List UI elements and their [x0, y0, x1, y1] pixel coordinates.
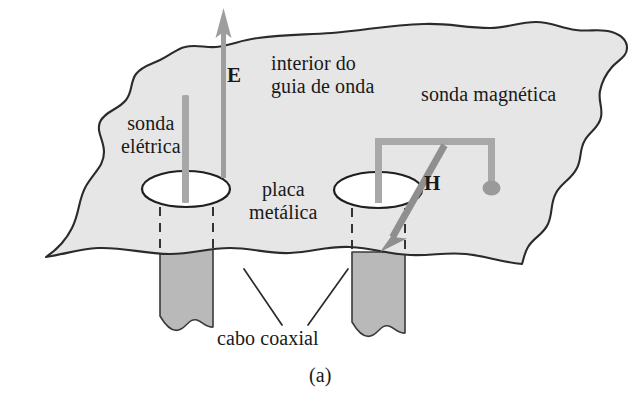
label-magnetic-probe: sonda magnética — [421, 83, 556, 106]
label-waveguide-interior: interior do guia de onda — [271, 52, 374, 98]
figure-caption: (a) — [309, 364, 332, 387]
leader-left — [244, 269, 282, 325]
cable-left — [160, 248, 213, 330]
electric-probe-rod — [182, 95, 189, 203]
leader-right — [308, 269, 348, 325]
label-coaxial-cable: cabo coaxial — [217, 327, 319, 350]
label-field-h: H — [424, 172, 440, 195]
leader-lines — [244, 269, 348, 325]
label-field-e: E — [227, 64, 241, 87]
figure-root: sonda elétrica interior do guia de onda … — [0, 0, 639, 409]
label-electric-probe: sonda elétrica — [121, 112, 181, 158]
cable-right — [352, 252, 405, 336]
label-metal-plate: placa metálica — [249, 178, 318, 224]
